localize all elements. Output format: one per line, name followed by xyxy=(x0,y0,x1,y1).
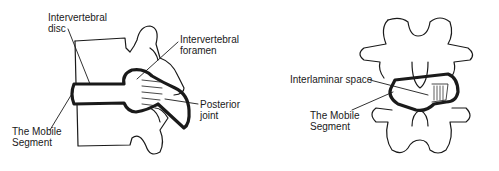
spine-mobile-segment-diagram: Intervertebral disc Intervertebral foram… xyxy=(0,0,499,171)
mobile-segment-outline-right xyxy=(390,74,458,110)
posterior-spine-view xyxy=(360,18,473,153)
mobile-segment-outline-left xyxy=(72,70,189,128)
label-posterior-joint: Posterior joint xyxy=(200,99,240,121)
label-intervertebral-disc: Intervertebral disc xyxy=(48,12,107,34)
label-mobile-segment-right: The Mobile Segment xyxy=(310,110,359,132)
lateral-spine-view xyxy=(75,26,184,154)
label-intervertebral-foramen: Intervertebral foramen xyxy=(180,34,239,56)
label-interlaminar-space: Interlaminar space xyxy=(290,74,372,85)
label-mobile-segment-left: The Mobile Segment xyxy=(12,126,61,148)
